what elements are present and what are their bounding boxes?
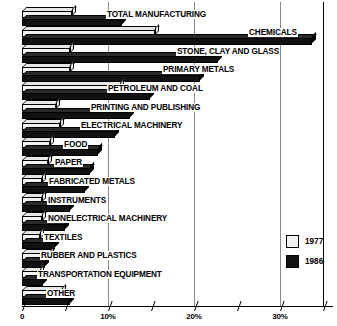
category-label: PRIMARY METALS [162, 65, 235, 74]
bar-1977 [22, 212, 42, 219]
bar-1977 [22, 119, 60, 126]
bar-1977 [22, 7, 72, 14]
bar-1977 [22, 230, 40, 237]
category-label: PRINTING AND PUBLISHING [90, 103, 201, 112]
bar-chart: TOTAL MANUFACTURINGCHEMICALSSTONE, CLAY … [0, 0, 337, 326]
legend-entry: 1986 [286, 254, 334, 274]
category-label: PAPER [54, 158, 83, 167]
bar-1977 [22, 100, 56, 107]
category-label: PETROLEUM AND COAL [107, 84, 204, 93]
category-label: FOOD [63, 140, 88, 149]
legend-entry: 1977 [286, 234, 334, 254]
legend-label-1977: 1977 [305, 237, 323, 246]
category-label: ELECTRICAL MACHINERY [80, 121, 183, 130]
category-label: NONELECTRICAL MACHINERY [47, 214, 168, 223]
bar-1977 [22, 26, 155, 33]
category-label: TRANSPORTATION EQUIPMENT [37, 270, 163, 279]
category-label: FABRICATED METALS [48, 177, 136, 186]
bar-1977 [22, 156, 48, 163]
axis-tick-label: 20% [186, 312, 201, 321]
category-label: CHEMICALS [248, 28, 298, 37]
bar-1977 [22, 63, 70, 70]
legend: 1977 1986 [286, 234, 334, 274]
bar-1977 [22, 193, 42, 200]
bar-front-face [22, 298, 70, 305]
bar-1977 [22, 174, 42, 181]
x-axis-line [22, 306, 333, 307]
category-label: OTHER [46, 289, 76, 298]
category-label: RUBBER AND PLASTICS [40, 251, 138, 260]
axis-tick-label: 0 [20, 312, 24, 321]
gridline [280, 2, 281, 306]
axis-tick-label: 30% [272, 312, 287, 321]
bar-1977 [22, 44, 70, 51]
category-label: TOTAL MANUFACTURING [106, 10, 207, 19]
gridline [108, 2, 109, 306]
legend-swatch-1986 [286, 255, 299, 268]
legend-swatch-1977 [286, 235, 299, 248]
category-label: INSTRUMENTS [47, 196, 107, 205]
category-label: STONE, CLAY AND GLASS [176, 47, 280, 56]
legend-label-1986: 1986 [305, 257, 323, 266]
category-label: TEXTILES [43, 233, 83, 242]
bar-1977 [22, 137, 50, 144]
bar-1977 [22, 81, 120, 88]
axis-tick-label: 10% [100, 312, 115, 321]
